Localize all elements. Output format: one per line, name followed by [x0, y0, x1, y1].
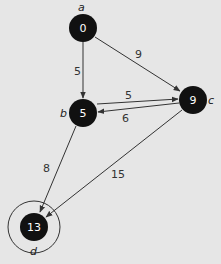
edge-weight-a-c: 9	[135, 48, 142, 61]
edge-a-c: 9	[95, 37, 180, 91]
edge-c-d: 15	[46, 110, 182, 217]
node-value-d: 13	[27, 221, 41, 234]
edge-a-b: 5	[74, 42, 83, 98]
node-a: a 0	[69, 1, 97, 42]
node-b: b 5	[60, 99, 97, 127]
edge-weight-c-d: 15	[111, 168, 125, 181]
edge-b-d: 8	[40, 126, 76, 212]
node-value-b: 5	[80, 107, 87, 120]
node-d: 13 d	[8, 201, 60, 258]
graph-diagram: 5 9 5 6 8 15 a 0 b 5 9 c 13	[0, 0, 221, 264]
edge-weight-b-c: 5	[125, 89, 132, 102]
node-letter-d: d	[30, 245, 38, 258]
node-value-a: 0	[80, 22, 87, 35]
node-value-c: 9	[190, 94, 197, 107]
node-letter-b: b	[60, 107, 67, 120]
edge-weight-b-d: 8	[43, 162, 50, 175]
node-letter-c: c	[208, 94, 214, 107]
node-c: 9 c	[179, 86, 214, 114]
edge-weight-c-b: 6	[122, 112, 129, 125]
edge-b-c: 5	[97, 89, 178, 104]
edge-weight-a-b: 5	[74, 65, 81, 78]
node-letter-a: a	[78, 1, 85, 14]
